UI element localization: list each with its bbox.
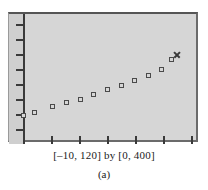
y-axis-tick — [16, 99, 24, 101]
x-axis-tick — [79, 136, 81, 144]
plot-canvas — [9, 14, 199, 144]
y-axis-tick — [16, 54, 24, 56]
x-axis-tick — [23, 136, 25, 144]
scatter-point-square — [169, 57, 174, 62]
x-marker-stroke — [173, 51, 180, 58]
scatter-point-square — [159, 67, 164, 72]
y-axis-tick — [16, 24, 24, 26]
y-axis-tick — [16, 84, 24, 86]
caption-axis-range: [–10, 120] by [0, 400] — [0, 149, 208, 161]
scatter-point-square — [105, 87, 110, 92]
y-axis-tick — [16, 129, 24, 131]
scatter-point-square — [91, 92, 96, 97]
plot-left-margin-strip — [9, 14, 23, 144]
scatter-point-square — [50, 104, 55, 109]
x-marker-stroke — [173, 51, 180, 58]
figure-container: [–10, 120] by [0, 400] (a) — [0, 0, 208, 190]
caption-subfigure-label: (a) — [0, 168, 208, 180]
scatter-point-square — [64, 100, 69, 105]
scatter-point-square — [132, 78, 137, 83]
scatter-point-square — [119, 83, 124, 88]
y-axis-tick — [16, 39, 24, 41]
y-axis-line — [23, 14, 25, 142]
x-axis-tick — [191, 136, 193, 144]
plot-frame — [8, 12, 198, 142]
scatter-point-square — [78, 97, 83, 102]
scatter-point-square — [21, 113, 26, 118]
x-axis-tick — [163, 136, 165, 144]
scatter-point-square — [32, 110, 37, 115]
y-axis-tick — [16, 69, 24, 71]
x-axis-tick — [51, 136, 53, 144]
scatter-point-x-marker — [173, 51, 180, 58]
x-axis-tick — [107, 136, 109, 144]
scatter-point-square — [146, 73, 151, 78]
x-axis-tick — [135, 136, 137, 144]
